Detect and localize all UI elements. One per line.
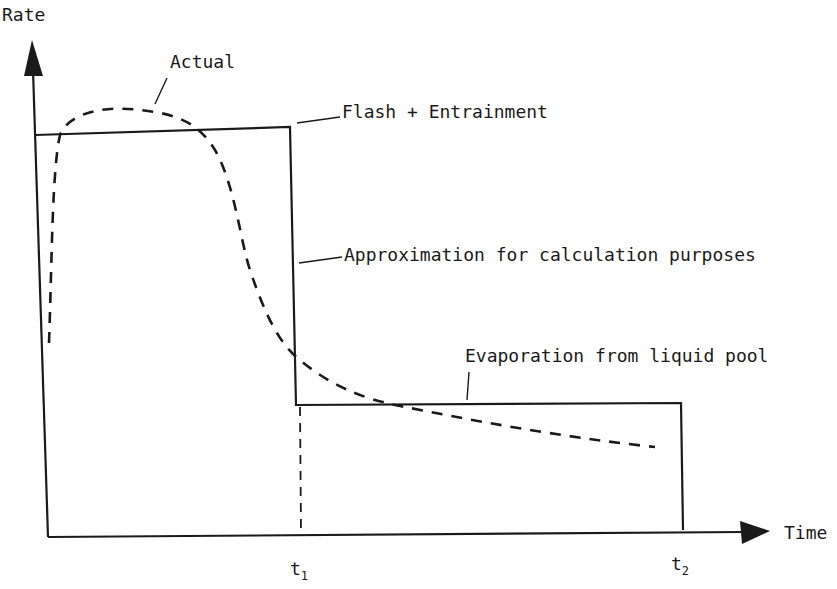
tick-t2-sub: 2 (682, 564, 689, 578)
t1-dashed-line (300, 407, 301, 532)
approximation-label: Approximation for calculation purposes (344, 246, 756, 264)
x-axis-label: Time (784, 524, 827, 542)
actual-curve (49, 109, 655, 447)
leader-lines (155, 78, 469, 400)
tick-t2: t2 (671, 555, 689, 573)
actual-label: Actual (170, 53, 235, 71)
y-axis (24, 40, 48, 537)
tick-t1: t1 (290, 560, 308, 578)
y-axis-arrow-icon (24, 40, 43, 76)
approximation-step (35, 127, 683, 530)
y-axis-label: Rate (2, 6, 45, 24)
x-axis (48, 521, 770, 544)
evaporation-label: Evaporation from liquid pool (465, 347, 768, 365)
tick-t1-sub: 1 (301, 569, 308, 583)
flash-entrainment-label: Flash + Entrainment (342, 103, 548, 121)
x-axis-arrow-icon (740, 521, 770, 544)
tick-t2-base: t (671, 553, 682, 574)
tick-t1-base: t (290, 558, 301, 579)
diagram-canvas (0, 0, 837, 589)
